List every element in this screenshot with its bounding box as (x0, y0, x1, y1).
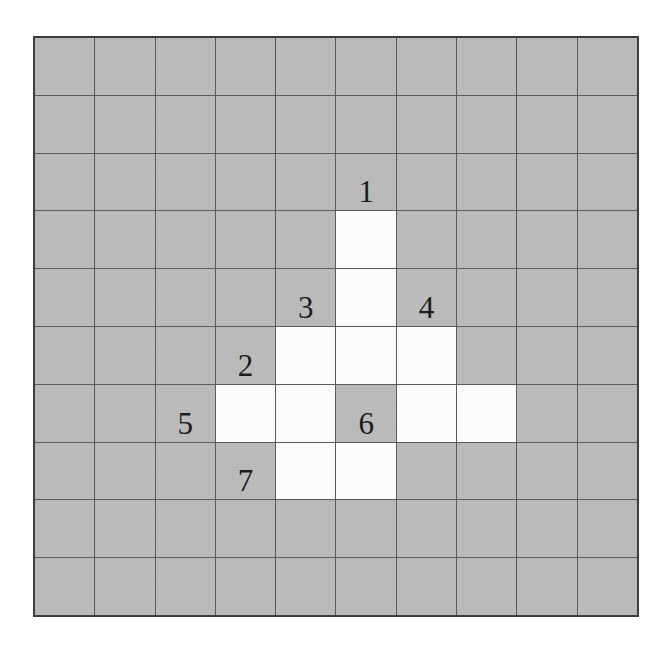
grid-cell (397, 96, 456, 153)
grid-cell (457, 154, 516, 211)
clue-number: 4 (397, 292, 456, 323)
grid-cell (216, 96, 275, 153)
grid-cell (397, 38, 456, 95)
grid-cell (95, 211, 154, 268)
grid-cell (517, 269, 576, 326)
grid-cell (35, 38, 94, 95)
grid-cell (457, 96, 516, 153)
grid-cell (35, 500, 94, 557)
grid-cell (276, 558, 335, 615)
grid-cell (397, 211, 456, 268)
grid-cell (156, 96, 215, 153)
grid-cell (578, 327, 637, 384)
grid-cell-open (276, 443, 335, 500)
grid-cell (156, 38, 215, 95)
grid-cell (95, 96, 154, 153)
grid-cell (156, 154, 215, 211)
grid-cell (457, 327, 516, 384)
grid-cell (517, 38, 576, 95)
grid-cell-open (336, 269, 395, 326)
grid-cell (336, 96, 395, 153)
grid-cell: 4 (397, 269, 456, 326)
grid-cell (397, 558, 456, 615)
grid-cell-open (276, 385, 335, 442)
clue-number: 6 (336, 408, 395, 439)
grid-cell (156, 269, 215, 326)
grid-cell (578, 38, 637, 95)
grid-cell (95, 38, 154, 95)
grid-cell (276, 96, 335, 153)
grid-cell (276, 500, 335, 557)
grid-cell: 3 (276, 269, 335, 326)
grid-cell (578, 96, 637, 153)
grid-cell (216, 500, 275, 557)
grid-cell (216, 558, 275, 615)
grid-cell-open (336, 211, 395, 268)
grid-cell (578, 500, 637, 557)
grid-cell (578, 443, 637, 500)
grid-cell (35, 385, 94, 442)
clue-number: 3 (276, 292, 335, 323)
grid-cell (397, 500, 456, 557)
grid-cell (216, 154, 275, 211)
grid-cell (95, 500, 154, 557)
grid-cell (216, 211, 275, 268)
grid-cell (457, 443, 516, 500)
grid-cell (156, 327, 215, 384)
grid-cell-open (457, 385, 516, 442)
grid-cell (457, 558, 516, 615)
grid-cell (35, 211, 94, 268)
grid-cell (336, 500, 395, 557)
grid-cell (95, 443, 154, 500)
grid-cell (35, 269, 94, 326)
grid-cell (578, 558, 637, 615)
grid-cell-open (216, 385, 275, 442)
grid-cell (397, 443, 456, 500)
grid-cell: 5 (156, 385, 215, 442)
grid-cell (276, 38, 335, 95)
grid-cell-open (336, 443, 395, 500)
grid-cell-open (397, 385, 456, 442)
grid-cell (578, 154, 637, 211)
grid-cell (517, 154, 576, 211)
grid-cell: 7 (216, 443, 275, 500)
puzzle-grid: 1342567 (33, 36, 639, 617)
clue-number: 2 (216, 350, 275, 381)
grid-cell: 6 (336, 385, 395, 442)
grid-cell (156, 500, 215, 557)
grid-cell (216, 269, 275, 326)
grid-cell (276, 154, 335, 211)
grid-cell (336, 38, 395, 95)
grid-cell (517, 327, 576, 384)
grid-cell (35, 327, 94, 384)
grid-cell (517, 385, 576, 442)
grid-cell (216, 38, 275, 95)
grid-cell (457, 269, 516, 326)
grid-cell (578, 211, 637, 268)
grid-cell (95, 327, 154, 384)
grid-cell (517, 443, 576, 500)
grid-cell (578, 385, 637, 442)
grid-cell (457, 38, 516, 95)
grid-cell-open (397, 327, 456, 384)
grid-cell: 2 (216, 327, 275, 384)
grid-cell (95, 385, 154, 442)
grid-cell (156, 211, 215, 268)
grid-cell (517, 96, 576, 153)
grid-cell (336, 558, 395, 615)
clue-number: 1 (336, 176, 395, 207)
grid-cell (276, 211, 335, 268)
clue-number: 7 (216, 465, 275, 496)
clue-number: 5 (156, 408, 215, 439)
grid-cell (457, 500, 516, 557)
grid-cell-open (336, 327, 395, 384)
grid-cell (517, 558, 576, 615)
grid-cell (35, 154, 94, 211)
grid-cell (517, 211, 576, 268)
grid-cell: 1 (336, 154, 395, 211)
grid-cell (35, 558, 94, 615)
grid-cell (95, 154, 154, 211)
grid-cell (397, 154, 456, 211)
grid-cell (95, 558, 154, 615)
grid-cell-open (276, 327, 335, 384)
